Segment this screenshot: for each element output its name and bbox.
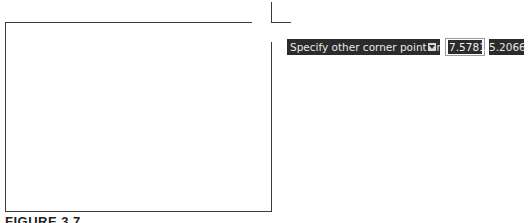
crosshair-cursor-vertical — [271, 2, 272, 23]
rectangle-right-edge — [271, 42, 272, 212]
crosshair-cursor-horizontal — [271, 22, 291, 23]
figure-caption: FIGURE 3.7 — [5, 214, 81, 223]
rectangle-bottom-edge — [5, 211, 272, 212]
x-coordinate-value: 7.5781 — [448, 40, 482, 54]
prompt-text: Specify other corner point or — [290, 41, 441, 53]
rectangle-left-edge — [5, 22, 6, 212]
rectangle-top-edge — [5, 22, 252, 23]
y-coordinate-input[interactable]: 5.2066 — [489, 39, 524, 55]
dynamic-input-prompt: Specify other corner point or — [287, 39, 440, 55]
x-coordinate-input[interactable]: 7.5781 — [445, 38, 485, 56]
down-arrow-icon[interactable] — [428, 43, 436, 51]
